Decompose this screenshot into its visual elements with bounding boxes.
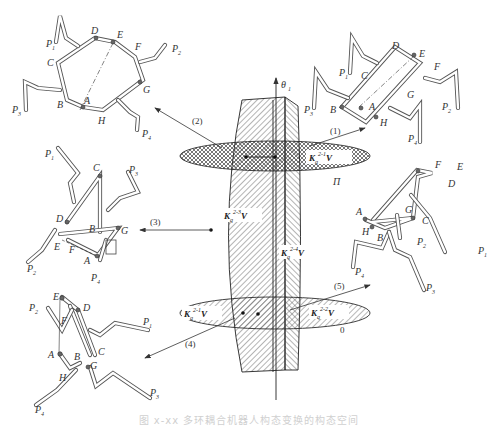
svg-text:A: A xyxy=(83,255,91,266)
svg-text:G: G xyxy=(121,225,128,236)
svg-text:D: D xyxy=(55,213,64,224)
svg-text:E: E xyxy=(116,29,123,40)
transition-5-label: (5) xyxy=(334,281,345,291)
svg-text:P4: P4 xyxy=(141,128,151,141)
svg-text:P2: P2 xyxy=(441,101,451,114)
config-lower-left: A B C D E F G H P1 P2 P3 P4 xyxy=(28,291,159,417)
svg-text:B: B xyxy=(330,104,336,115)
svg-text:F: F xyxy=(433,61,441,72)
svg-text:F: F xyxy=(134,41,142,52)
svg-text:C: C xyxy=(98,346,105,357)
svg-text:P2: P2 xyxy=(171,43,181,56)
svg-text:C: C xyxy=(422,215,429,226)
config-upper-left: A B C D E F G H P1 P2 P3 P4 xyxy=(11,16,181,141)
svg-text:E: E xyxy=(456,161,463,172)
svg-text:P4: P4 xyxy=(90,272,100,285)
svg-text:F: F xyxy=(68,244,76,255)
config-upper-right: A B C D E F G H P1 P2 P3 P4 xyxy=(303,38,458,146)
svg-text:P3: P3 xyxy=(425,282,435,295)
svg-text:F: F xyxy=(434,159,442,170)
configuration-space-diagram: θ 1 Kq2-1V Π Kq2-3V Kq2-4V Kq2-1V xyxy=(0,0,498,430)
svg-text:A: A xyxy=(368,101,376,112)
svg-text:P2: P2 xyxy=(28,302,38,315)
svg-text:H: H xyxy=(361,226,370,237)
svg-text:A: A xyxy=(47,349,55,360)
svg-text:D: D xyxy=(90,25,99,36)
zero-label: 0 xyxy=(340,325,345,335)
svg-text:D: D xyxy=(391,40,400,51)
svg-text:H: H xyxy=(379,117,388,128)
figure-caption: 图 x-xx 多环耦合机器人构态变换的构态空间 xyxy=(0,412,498,427)
svg-text:H: H xyxy=(58,372,67,383)
svg-text:B: B xyxy=(57,99,63,110)
svg-text:A: A xyxy=(355,206,363,217)
svg-text:P1: P1 xyxy=(338,67,348,80)
svg-text:D: D xyxy=(82,302,91,313)
svg-text:P3: P3 xyxy=(11,104,21,117)
svg-text:1: 1 xyxy=(288,86,291,92)
svg-text:P1: P1 xyxy=(45,38,55,51)
svg-text:G: G xyxy=(143,84,150,95)
transition-1-label: (1) xyxy=(330,126,341,136)
svg-text:E: E xyxy=(53,241,60,252)
svg-text:P2: P2 xyxy=(26,263,36,276)
svg-text:C: C xyxy=(361,70,368,81)
svg-text:H: H xyxy=(97,115,106,126)
config-middle-right: A B C D E F G H P1 P2 P3 P4 xyxy=(353,159,487,295)
svg-text:G: G xyxy=(405,204,412,215)
svg-text:E: E xyxy=(52,291,59,302)
svg-text:A: A xyxy=(83,95,91,106)
svg-text:B: B xyxy=(89,223,95,234)
svg-text:C: C xyxy=(93,162,100,173)
svg-text:P4: P4 xyxy=(354,266,364,279)
svg-text:F: F xyxy=(60,315,68,326)
axis-label: θ xyxy=(281,79,286,90)
svg-text:C: C xyxy=(47,57,54,68)
svg-text:P1: P1 xyxy=(477,245,487,258)
svg-text:G: G xyxy=(407,89,414,100)
plane-label: Π xyxy=(332,176,341,187)
transition-4-label: (4) xyxy=(185,339,196,349)
svg-text:D: D xyxy=(447,178,456,189)
config-middle-left: A B C D E F G P1 P2 P3 P4 xyxy=(26,148,138,285)
svg-text:P3: P3 xyxy=(303,104,313,117)
lower-plane: Kq2-1V Kq2-2V 0 xyxy=(180,297,370,335)
svg-text:P1: P1 xyxy=(44,148,54,161)
svg-text:G: G xyxy=(90,360,97,371)
svg-text:B: B xyxy=(74,351,80,362)
central-surface xyxy=(229,97,301,372)
transition-3-label: (3) xyxy=(150,217,161,227)
transition-2-label: (2) xyxy=(192,116,203,126)
svg-text:P2: P2 xyxy=(416,236,426,249)
svg-text:P4: P4 xyxy=(407,133,417,146)
svg-text:B: B xyxy=(377,232,383,243)
svg-text:E: E xyxy=(418,48,425,59)
